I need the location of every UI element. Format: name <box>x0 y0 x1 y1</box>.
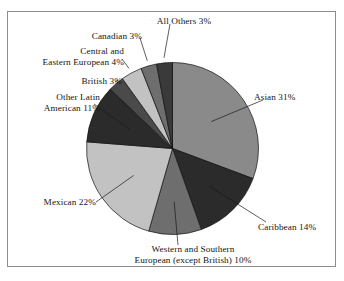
callout-british-line1: British 3% <box>44 76 122 87</box>
callout-british: British 3% <box>44 76 122 87</box>
leader-line <box>164 24 170 58</box>
callout-western-southern-european: Western and Southern European (except Br… <box>118 244 268 266</box>
callout-canadian: Canadian 3% <box>56 31 142 42</box>
pie-chart-figure: All Others 3% Canadian 3% Central and Ea… <box>0 0 344 281</box>
callout-other-latin-american-line1: Other Latin <box>10 92 100 103</box>
callout-other-latin-american: Other Latin American 11% <box>10 92 100 114</box>
callout-mexican: Mexican 22% <box>20 197 96 208</box>
callout-all-others: All Others 3% <box>142 16 226 27</box>
callout-central-eastern-european-line2: Eastern European 4% <box>18 57 124 68</box>
callout-western-southern-european-line1: Western and Southern <box>118 244 268 255</box>
callout-all-others-line1: All Others 3% <box>142 16 226 27</box>
callout-central-eastern-european-line1: Central and <box>18 46 124 57</box>
callout-asian: Asian 31% <box>254 92 334 103</box>
callout-asian-line1: Asian 31% <box>254 92 334 103</box>
callout-other-latin-american-line2: American 11% <box>10 103 100 114</box>
callout-caribbean: Caribbean 14% <box>258 222 340 233</box>
pie-chart-graphic <box>0 0 344 281</box>
pie-slices-group <box>87 62 259 234</box>
callout-mexican-line1: Mexican 22% <box>20 197 96 208</box>
callout-central-eastern-european: Central and Eastern European 4% <box>18 46 124 68</box>
callout-caribbean-line1: Caribbean 14% <box>258 222 340 233</box>
callout-canadian-line1: Canadian 3% <box>56 31 142 42</box>
callout-western-southern-european-line2: European (except British) 10% <box>118 255 268 266</box>
